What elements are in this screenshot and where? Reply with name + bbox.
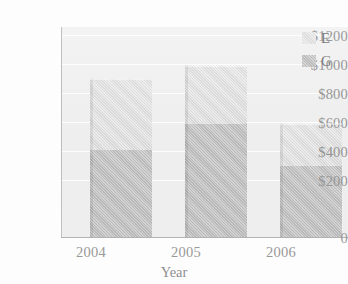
legend-swatch-g-icon <box>302 55 316 67</box>
x-tick-label-2004: 2004 <box>55 244 127 261</box>
bar-2004[interactable] <box>90 78 152 237</box>
legend-item-e[interactable]: E <box>302 28 346 48</box>
x-axis-title: Year <box>0 264 348 281</box>
y-tick-label-800: $800 <box>292 87 348 102</box>
bar-segment-e-2005[interactable] <box>185 65 247 124</box>
chart-legend: E G <box>302 28 346 74</box>
bar-segment-e-2004[interactable] <box>90 78 152 150</box>
bar-segment-g-2004[interactable] <box>90 150 152 237</box>
legend-label-e: E <box>321 31 330 46</box>
x-tick-label-2005: 2005 <box>150 244 222 261</box>
y-axis-line <box>61 27 62 238</box>
x-tick-label-2006: 2006 <box>245 244 317 261</box>
bar-2005[interactable] <box>185 65 247 237</box>
legend-label-g: G <box>321 54 331 69</box>
bar-segment-g-2005[interactable] <box>185 124 247 237</box>
bar-chart-figure: $1200 $1000 $800 $600 $400 $200 0 2004 2… <box>0 0 348 284</box>
y-tick-label-200: $200 <box>292 174 348 189</box>
legend-swatch-e-icon <box>302 32 316 44</box>
y-tick-label-400: $400 <box>292 145 348 160</box>
legend-item-g[interactable]: G <box>302 51 346 71</box>
